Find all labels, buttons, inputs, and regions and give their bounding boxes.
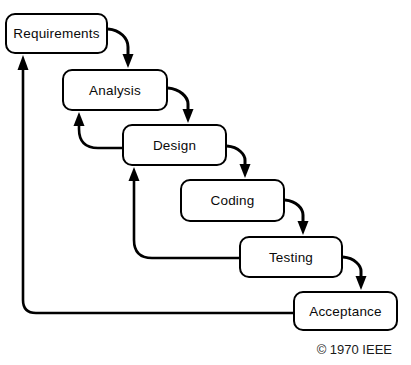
arrowhead-feedback-requirements-icon [18,55,29,70]
arrowhead-feedback-analysis-icon [74,112,85,126]
arrow-feedback-design-analysis-icon [79,126,122,148]
waterfall-diagram: Requirements Analysis Design Coding Test… [0,0,411,365]
stage-label-design: Design [153,138,196,153]
stage-label-coding: Coding [211,193,255,208]
stage-box-testing: Testing [239,236,343,278]
arrow-forward-testing-acceptance-icon [343,257,361,277]
stage-label-testing: Testing [269,250,313,265]
copyright-notice: © 1970 IEEE [317,342,392,357]
arrow-forward-requirements-analysis-icon [108,29,128,55]
arrowhead-into-coding-icon [240,164,251,178]
stage-box-acceptance: Acceptance [293,291,398,331]
arrowhead-feedback-design-icon [129,167,140,181]
arrowhead-into-design-icon [183,109,194,123]
arrowhead-into-analysis-icon [123,54,134,68]
arrow-forward-coding-testing-icon [285,200,303,222]
arrowhead-into-testing-icon [298,221,309,235]
arrow-forward-design-coding-icon [227,146,245,165]
stage-box-coding: Coding [180,179,285,222]
stage-label-acceptance: Acceptance [309,304,382,319]
arrow-forward-analysis-design-icon [168,88,188,110]
stage-label-requirements: Requirements [13,26,99,41]
stage-box-analysis: Analysis [62,69,168,111]
stage-box-design: Design [122,124,227,166]
stage-box-requirements: Requirements [5,13,108,54]
stage-label-analysis: Analysis [89,83,141,98]
arrowhead-into-acceptance-icon [356,276,367,290]
